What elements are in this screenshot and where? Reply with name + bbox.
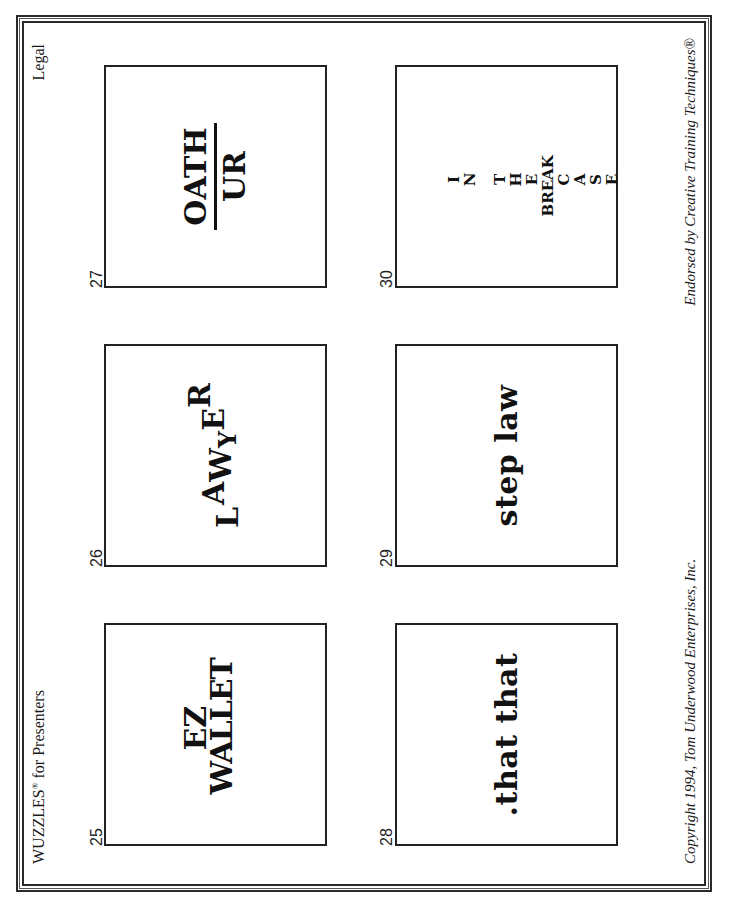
puzzle-30-content: I N T H E BREAK C A S E [447,77,567,277]
puzzle-box-28: .that that [395,623,618,846]
puzzle-30-letter-h: H [509,171,524,189]
puzzle-30-letter-e2: E [605,171,620,189]
puzzle-30-letter-i: I [447,171,462,189]
puzzle-27-fraction: OATH UR [180,123,251,229]
title-subtitle: for Presenters [30,690,47,782]
puzzle-box-29: step law [395,344,618,567]
puzzle-30-letter-t: T [493,171,508,189]
puzzle-box-30: I N T H E BREAK C A S E [395,65,618,288]
puzzle-box-27: OATH UR [104,65,327,288]
puzzle-28-text: .that that [489,653,524,817]
copyright-notice: Copyright 1994, Tom Underwood Enterprise… [682,559,699,864]
puzzle-26-content: L A W Y E R [198,383,233,528]
puzzle-30-word-break: BREAK [541,155,556,216]
category-label: Legal [30,44,48,80]
puzzle-30-letter-s: S [589,171,604,189]
puzzle-box-25: EZ WALLET [104,623,327,846]
puzzle-26-letter-e: E [196,408,231,431]
puzzle-number-28: 28 [378,828,396,846]
title-brand: WUZZLES [30,789,47,864]
puzzle-25-line-wallet: WALLET [207,658,237,794]
puzzle-26-letter-y: Y [213,431,242,448]
puzzle-30-letter-n: N [463,171,478,189]
puzzle-26-letter-r: R [182,383,217,408]
puzzle-30-letter-a: A [573,171,588,189]
registered-mark: ® [30,783,40,790]
endorsement-notice: Endorsed by Creative Training Techniques… [682,38,699,306]
puzzle-box-26: L A W Y E R [104,344,327,567]
puzzle-27-denominator: UR [217,151,251,202]
puzzle-29-text: step law [489,385,524,527]
puzzle-30-letter-e: E [525,171,540,189]
wuzzles-page: WUZZLES® for Presenters Legal 25 EZ WALL… [0,0,732,904]
page-title: WUZZLES® for Presenters [30,690,48,864]
puzzle-25-content: EZ WALLET [181,665,251,805]
puzzle-26-letter-a: A [196,482,231,505]
puzzle-number-29: 29 [378,549,396,567]
puzzle-number-30: 30 [378,270,396,288]
puzzle-26-letter-w: W [203,448,238,482]
puzzle-30-letter-c: C [557,171,572,189]
puzzle-26-letter-l: L [210,507,245,528]
puzzle-27-numerator: OATH [180,123,217,229]
